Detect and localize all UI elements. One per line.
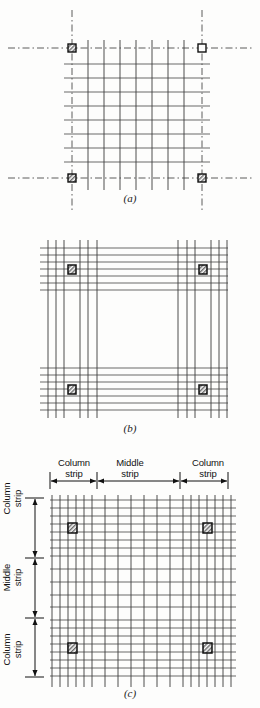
grid-horizontal-bars (64, 64, 210, 162)
column-bottom-left (68, 385, 76, 394)
panel-c: Column strip Middle strip Column strip C… (0, 455, 260, 708)
centerlines (8, 10, 252, 212)
caption-panel-b: (b) (0, 422, 260, 434)
panel-c-drawing (0, 455, 260, 708)
columns-panel-c (68, 523, 212, 653)
dimension-line-left (25, 498, 44, 677)
column-top-right (203, 523, 212, 533)
column-top-left (68, 523, 77, 533)
columns-panel-a (68, 44, 206, 182)
column-bottom-right (198, 174, 206, 182)
column-top-left (68, 44, 76, 52)
caption-panel-c: (c) (0, 687, 260, 699)
column-bottom-left (68, 174, 76, 182)
column-top-right (199, 265, 207, 274)
strip-label-left-column-bottom: Column strip (2, 622, 23, 678)
panel-a-drawing (0, 0, 260, 215)
panel-b-drawing (0, 238, 260, 450)
strip-label-top-column-right: Column strip (172, 458, 244, 479)
grid-vertical-bars (88, 40, 184, 190)
figure-two-way-slab-reinforcement: (a) (0, 0, 260, 708)
panel-a: (a) (0, 0, 260, 215)
column-bottom-left (68, 643, 77, 653)
column-bottom-right (199, 385, 207, 394)
caption-panel-a: (a) (0, 192, 260, 204)
panel-b: (b) (0, 238, 260, 450)
column-top-right (198, 44, 206, 52)
strip-label-left-column-top: Column strip (2, 471, 23, 527)
column-top-left (68, 265, 76, 274)
strip-label-left-middle: Middle strip (2, 550, 23, 606)
column-bottom-right (203, 643, 212, 653)
strip-label-top-middle: Middle strip (92, 458, 168, 479)
